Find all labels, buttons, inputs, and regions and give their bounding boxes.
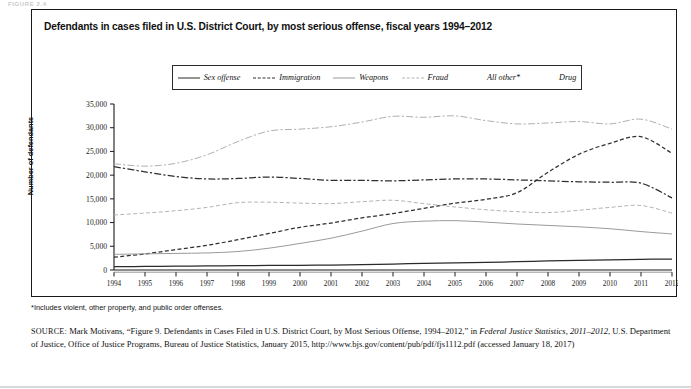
svg-text:2012: 2012	[665, 280, 678, 288]
legend-label-fraud: Fraud	[428, 73, 448, 82]
svg-text:1999: 1999	[262, 280, 277, 288]
svg-text:30,000: 30,000	[86, 123, 107, 132]
legend-swatch-weapons	[333, 74, 355, 82]
chart-plot-area: Number of defendants 05,00010,00015,0002…	[32, 98, 678, 294]
source-italic-title: Federal Justice Statistics, 2011–2012	[479, 326, 608, 336]
svg-text:1995: 1995	[138, 280, 153, 288]
page-title: Defendants in cases filed in U.S. Distri…	[44, 21, 492, 32]
svg-text:2006: 2006	[479, 280, 494, 288]
series-line-all-other	[114, 167, 672, 198]
legend-label-all-other: All other*	[487, 73, 520, 82]
series-line-sex-offense	[114, 259, 672, 267]
bottom-rule	[0, 386, 691, 388]
legend-label-weapons: Weapons	[359, 73, 388, 82]
source-text-1: Mark Motivans, “Figure 9. Defendants in …	[67, 326, 479, 336]
legend-label-sex-offense: Sex offense	[204, 73, 241, 82]
svg-text:2008: 2008	[541, 280, 556, 288]
legend-item-weapons[interactable]: Weapons	[333, 73, 388, 82]
svg-text:10,000: 10,000	[86, 218, 107, 227]
legend-swatch-immigration	[253, 74, 275, 82]
series-line-fraud	[114, 200, 672, 215]
svg-text:2004: 2004	[417, 280, 432, 288]
svg-text:2005: 2005	[448, 280, 463, 288]
svg-text:2003: 2003	[386, 280, 401, 288]
series-line-immigration	[114, 136, 672, 257]
legend-swatch-sex-offense	[178, 74, 200, 82]
svg-text:1996: 1996	[169, 280, 184, 288]
svg-text:2010: 2010	[603, 280, 618, 288]
svg-text:2007: 2007	[510, 280, 525, 288]
svg-text:1998: 1998	[231, 280, 246, 288]
svg-text:35,000: 35,000	[86, 100, 107, 109]
source-label: SOURCE:	[31, 327, 67, 336]
legend-label-immigration: Immigration	[279, 73, 320, 82]
legend-label-drug: Drug	[559, 73, 576, 82]
svg-text:2001: 2001	[324, 280, 339, 288]
svg-text:0: 0	[103, 266, 107, 275]
legend-item-immigration[interactable]: Immigration	[253, 73, 320, 82]
figure-number-label: FIGURE 2.4	[8, 0, 47, 8]
chart-legend: Sex offense Immigration Weapons Fraud Al…	[172, 65, 582, 90]
svg-text:5,000: 5,000	[90, 242, 107, 251]
legend-item-all-other[interactable]: All other*	[461, 73, 520, 82]
source-citation: SOURCE: Mark Motivans, “Figure 9. Defend…	[31, 325, 671, 350]
svg-text:15,000: 15,000	[86, 195, 107, 204]
series-line-drug	[114, 116, 672, 166]
svg-text:1994: 1994	[107, 280, 122, 288]
svg-text:2000: 2000	[293, 280, 308, 288]
legend-swatch-drug	[533, 74, 555, 82]
svg-text:1997: 1997	[200, 280, 215, 288]
legend-swatch-all-other	[461, 74, 483, 82]
svg-text:2002: 2002	[355, 280, 370, 288]
legend-swatch-fraud	[402, 74, 424, 82]
legend-item-drug[interactable]: Drug	[533, 73, 576, 82]
svg-text:25,000: 25,000	[86, 147, 107, 156]
figure-panel: Defendants in cases filed in U.S. Distri…	[31, 9, 677, 297]
series-line-weapons	[114, 221, 672, 255]
svg-text:2011: 2011	[634, 280, 649, 288]
svg-text:2009: 2009	[572, 280, 587, 288]
legend-item-sex-offense[interactable]: Sex offense	[178, 73, 241, 82]
line-chart: 05,00010,00015,00020,00025,00030,00035,0…	[32, 98, 678, 294]
svg-text:20,000: 20,000	[86, 171, 107, 180]
chart-footnote: *Includes violent, other property, and p…	[31, 303, 223, 312]
y-axis-title: Number of defendants	[26, 96, 35, 216]
legend-item-fraud[interactable]: Fraud	[402, 73, 448, 82]
